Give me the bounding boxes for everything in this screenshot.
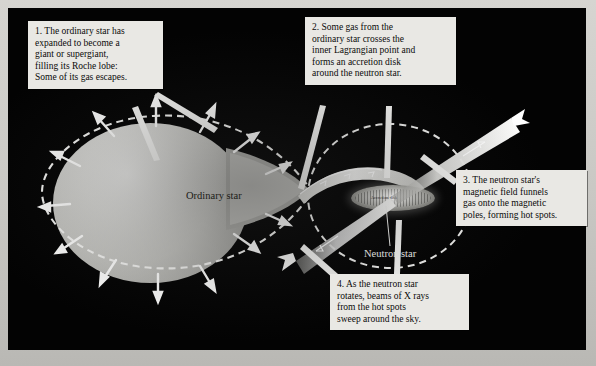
callout-2-line-2: ordinary star crosses the <box>312 34 450 46</box>
callout-1-line-1: 1. The ordinary star has <box>35 26 157 38</box>
callout-3-line-2: magnetic field funnels <box>463 187 581 199</box>
callout-2[interactable]: 2. Some gas from the ordinary star cross… <box>305 17 456 85</box>
callout-2-line-5: around the neutron star. <box>312 68 450 80</box>
callout-2-line-1: 2. Some gas from the <box>312 22 450 34</box>
callout-4-line-1: 4. As the neutron star <box>337 279 463 291</box>
callout-3-line-1: 3. The neutron star's <box>463 175 581 187</box>
callout-2-line-3: inner Lagrangian point and <box>312 45 450 57</box>
neutron-star-label: Neutron star <box>364 248 416 259</box>
callout-1-line-4: filling its Roche lobe: <box>35 61 157 73</box>
callout-1-line-2: expanded to become a <box>35 38 157 50</box>
figure-page: Accretion disk <box>0 0 596 366</box>
callout-4-line-4: sweep around the sky. <box>337 314 463 326</box>
callout-1-line-3: giant or supergiant, <box>35 49 157 61</box>
callout-3[interactable]: 3. The neutron star's magnetic field fun… <box>456 170 587 226</box>
callout-3-line-4: poles, forming hot spots. <box>463 210 581 222</box>
callout-4-line-2: rotates, beams of X rays <box>337 291 463 303</box>
ordinary-star-label: Ordinary star <box>186 190 242 201</box>
callout-1[interactable]: 1. The ordinary star has expanded to bec… <box>28 21 163 89</box>
callout-4-line-3: from the hot spots <box>337 302 463 314</box>
callout-2-line-4: forms an accretion disk <box>312 57 450 69</box>
callout-3-line-3: gas onto the magnetic <box>463 198 581 210</box>
callout-4[interactable]: 4. As the neutron star rotates, beams of… <box>330 274 469 330</box>
callout-1-line-5: Some of its gas escapes. <box>35 72 157 84</box>
